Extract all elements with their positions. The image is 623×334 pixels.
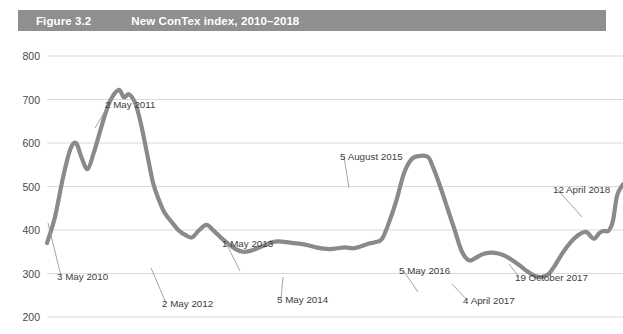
annotation-label: 1 May 2013 <box>222 238 274 249</box>
y-axis-tick-label: 500 <box>22 181 40 193</box>
figure-header-band: Figure 3.2 New ConTex index, 2010–2018 <box>18 10 606 31</box>
y-axis-tick-label: 200 <box>22 311 40 323</box>
annotation-label: 19 October 2017 <box>515 272 588 283</box>
y-axis-tick-labels: 200300400500600700800 <box>22 50 40 323</box>
annotation-label: 12 April 2018 <box>553 184 611 195</box>
series-group <box>47 90 623 277</box>
annotation-label: 5 August 2015 <box>340 151 403 162</box>
y-axis-tick-label: 800 <box>22 50 40 62</box>
annotation-leader-line <box>48 223 61 276</box>
figure-title: New ConTex index, 2010–2018 <box>131 15 299 27</box>
annotation-label: 3 May 2010 <box>57 271 109 282</box>
y-axis-tick-label: 400 <box>22 224 40 236</box>
figure-number: Figure 3.2 <box>36 15 91 27</box>
line-chart-svg: 200300400500600700800 3 May 20102 May 20… <box>0 36 623 334</box>
annotations-group: 3 May 20102 May 20112 May 20121 May 2013… <box>48 99 611 309</box>
chart-plot-area: 200300400500600700800 3 May 20102 May 20… <box>0 36 623 334</box>
annotation-label: 5 May 2014 <box>277 294 329 305</box>
y-axis-tick-label: 300 <box>22 268 40 280</box>
y-axis-tick-label: 600 <box>22 137 40 149</box>
y-axis-tick-label: 700 <box>22 94 40 106</box>
annotation-label: 2 May 2011 <box>105 99 155 110</box>
annotation-label: 2 May 2012 <box>162 298 213 309</box>
annotation-label: 5 May 2016 <box>399 265 451 276</box>
series-line-new-contex-index <box>47 90 623 277</box>
annotation-label: 4 April 2017 <box>463 295 515 306</box>
